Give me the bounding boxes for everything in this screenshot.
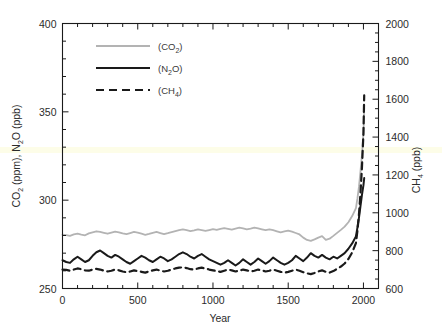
y-tick-label-right: 1200 xyxy=(386,169,410,181)
y-axis-right-title: CH4 (ppb) xyxy=(410,147,424,194)
y-tick-label-left: 250 xyxy=(39,283,57,295)
x-tick-label: 2000 xyxy=(352,294,376,306)
y-tick-label-right: 1400 xyxy=(386,131,410,143)
y-tick-label-left: 350 xyxy=(39,106,57,118)
y-tick-label-left: 400 xyxy=(39,18,57,30)
y-tick-label-right: 1000 xyxy=(386,207,410,219)
x-axis-title: Year xyxy=(209,312,231,324)
y-tick-label-left: 300 xyxy=(39,194,57,206)
y-tick-label-right: 800 xyxy=(386,245,404,257)
y-tick-label-right: 1800 xyxy=(386,55,410,67)
scan-artifact-band xyxy=(0,147,442,153)
x-tick-label: 0 xyxy=(60,294,66,306)
greenhouse-gas-concentration-chart: 0500100015002000250300350400600800100012… xyxy=(0,0,442,333)
y-axis-left-title: CO2 (ppm), N2O (ppb) xyxy=(10,105,24,208)
y-tick-label-right: 600 xyxy=(386,283,404,295)
x-tick-label: 1500 xyxy=(277,294,301,306)
x-tick-label: 1000 xyxy=(201,294,225,306)
y-tick-label-right: 2000 xyxy=(386,18,410,30)
figure-background xyxy=(0,0,442,333)
x-tick-label: 500 xyxy=(129,294,147,306)
y-tick-label-right: 1600 xyxy=(386,93,410,105)
